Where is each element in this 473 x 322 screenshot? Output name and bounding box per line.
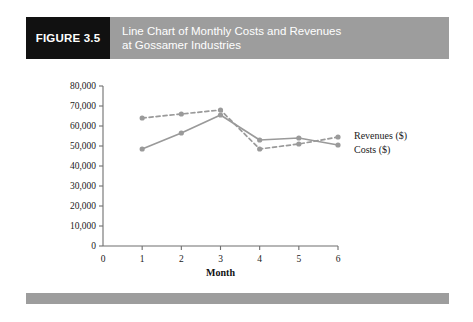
- y-tick-label: 0: [91, 241, 96, 251]
- figure-container: FIGURE 3.5 Line Chart of Monthly Costs a…: [0, 0, 473, 322]
- series-point-1: [218, 107, 223, 112]
- series-line-2: [142, 115, 338, 149]
- figure-title-line-2: at Gossamer Industries: [122, 38, 449, 53]
- y-tick-label: 10,000: [70, 221, 96, 231]
- series-point-1: [335, 134, 340, 139]
- y-tick-label: 60,000: [70, 121, 96, 131]
- legend-label-1: Revenues ($): [354, 130, 407, 142]
- x-tick-label: 4: [257, 254, 262, 264]
- y-tick-label: 40,000: [70, 161, 96, 171]
- series-point-2: [218, 112, 223, 117]
- series-point-2: [179, 130, 184, 135]
- x-tick-label: 6: [336, 254, 341, 264]
- y-tick-label: 70,000: [70, 101, 96, 111]
- series-point-1: [140, 115, 145, 120]
- y-tick-label: 30,000: [70, 181, 96, 191]
- x-tick-label: 2: [179, 254, 184, 264]
- series-point-1: [296, 141, 301, 146]
- x-tick-label: 1: [140, 254, 145, 264]
- series-point-2: [257, 137, 262, 142]
- figure-header: FIGURE 3.5 Line Chart of Monthly Costs a…: [26, 17, 449, 59]
- chart-plot-area: 010,00020,00030,00040,00050,00060,00070,…: [26, 59, 449, 286]
- y-tick-label: 50,000: [70, 141, 96, 151]
- y-tick-label: 20,000: [70, 201, 96, 211]
- line-chart: 010,00020,00030,00040,00050,00060,00070,…: [26, 59, 449, 286]
- series-point-1: [179, 111, 184, 116]
- x-tick-label: 5: [296, 254, 301, 264]
- x-axis-title: Month: [206, 267, 235, 278]
- figure-number-tag: FIGURE 3.5: [26, 17, 110, 59]
- figure-title-band: Line Chart of Monthly Costs and Revenues…: [110, 17, 449, 59]
- series-point-2: [140, 146, 145, 151]
- figure-footer-bar: [26, 293, 449, 304]
- series-line-1: [142, 110, 338, 149]
- series-point-1: [257, 146, 262, 151]
- series-point-2: [335, 142, 340, 147]
- x-tick-label: 0: [101, 254, 106, 264]
- legend-label-2: Costs ($): [354, 144, 390, 156]
- x-tick-label: 3: [218, 254, 223, 264]
- series-point-2: [296, 135, 301, 140]
- figure-title-line-1: Line Chart of Monthly Costs and Revenues: [122, 24, 449, 39]
- y-tick-label: 80,000: [70, 81, 96, 91]
